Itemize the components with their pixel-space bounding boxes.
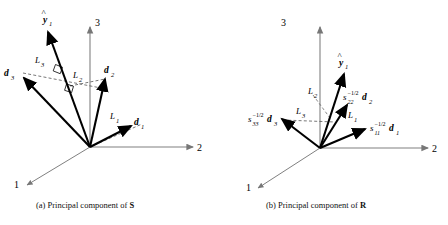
- panel-a-graphic: 3 2 1 y ^ 1 d 3 d 2 d 1: [4, 8, 202, 190]
- vector-yhat1-arrow: [320, 74, 344, 148]
- svg-text:2: 2: [197, 142, 202, 153]
- svg-text:L: L: [109, 111, 115, 121]
- svg-text:2: 2: [369, 98, 373, 105]
- panel-b-caption-text: (b) Principal component of: [266, 200, 360, 210]
- svg-text:1: 1: [141, 123, 144, 130]
- svg-text:d: d: [134, 117, 139, 127]
- axis-2-label: 2: [197, 142, 202, 153]
- panel-b-caption: (b) Principal component of R: [266, 200, 366, 210]
- svg-text:3: 3: [95, 17, 100, 28]
- svg-text:3: 3: [301, 112, 306, 119]
- vector-yhat1-label: y ^ 1: [42, 8, 53, 27]
- panel-a-caption: (a) Principal component of S: [36, 200, 134, 210]
- svg-text:s: s: [248, 114, 252, 124]
- svg-text:1: 1: [396, 129, 399, 136]
- vector-d1-label: d 1: [134, 117, 144, 130]
- svg-text:−1/2: −1/2: [253, 112, 264, 118]
- svg-text:1: 1: [49, 20, 52, 27]
- svg-text:−1/2: −1/2: [348, 90, 359, 96]
- axis-1-label: 1: [14, 179, 19, 190]
- svg-text:2: 2: [79, 76, 83, 83]
- svg-text:s: s: [370, 123, 374, 133]
- projection-L2-label: L 2: [307, 86, 318, 99]
- svg-text:d: d: [389, 123, 394, 133]
- svg-text:d: d: [267, 114, 272, 124]
- svg-text:L: L: [34, 55, 40, 65]
- svg-text:−1/2: −1/2: [375, 121, 386, 127]
- vector-d2-label: d 2: [104, 65, 115, 78]
- panel-a-caption-text: (a) Principal component of: [36, 200, 129, 210]
- axis-3-label: 3: [281, 17, 286, 28]
- vector-s11-d1-label: s 11 −1/2 d 1: [370, 121, 399, 136]
- svg-text:33: 33: [252, 121, 259, 127]
- projection-L2-label: L 2: [72, 70, 83, 83]
- axis-1-line: [258, 148, 320, 188]
- svg-text:11: 11: [375, 130, 381, 136]
- vector-yhat1-arrow: [48, 32, 90, 147]
- svg-text:2: 2: [111, 71, 115, 78]
- projection-L2-dash: [70, 79, 105, 86]
- svg-text:s: s: [343, 92, 347, 102]
- figure-canvas: 3 2 1 y ^ 1 d 3 d 2 d 1: [0, 0, 448, 225]
- projection-L1-label: L 1: [109, 111, 119, 124]
- panel-a-caption-matrix: S: [129, 200, 134, 210]
- svg-text:1: 1: [345, 63, 348, 70]
- vector-s33-d3-label: s 33 −1/2 d 3: [248, 112, 278, 127]
- vector-d1-arrow: [90, 126, 131, 147]
- svg-text:3: 3: [273, 120, 278, 127]
- svg-text:1: 1: [354, 116, 357, 123]
- figure-principal-components: 3 2 1 y ^ 1 d 3 d 2 d 1: [0, 0, 448, 225]
- vector-s33-d3-arrow: [282, 119, 320, 148]
- panel-b-graphic: 3 2 1 y ^ 1 s 33 −1/2 d 3 s 22: [246, 17, 437, 193]
- vector-d3-label: d 3: [4, 68, 15, 81]
- projection-L3-dash: [23, 73, 101, 88]
- svg-text:1: 1: [246, 182, 251, 193]
- axis-1-line: [27, 147, 90, 185]
- axis-2-label: 2: [432, 143, 437, 154]
- vector-s22-d2-label: s 22 −1/2 d 2: [343, 90, 373, 105]
- svg-text:3: 3: [40, 61, 45, 68]
- svg-text:L: L: [295, 106, 301, 116]
- svg-text:d: d: [104, 65, 109, 75]
- vector-yhat1-label: y ^ 1: [338, 51, 349, 70]
- projection-L1-label: L 1: [347, 110, 357, 123]
- axis-1-label: 1: [246, 182, 251, 193]
- svg-text:22: 22: [348, 99, 354, 105]
- svg-text:2: 2: [314, 92, 318, 99]
- svg-text:1: 1: [116, 117, 119, 124]
- svg-text:2: 2: [432, 143, 437, 154]
- svg-text:L: L: [307, 86, 313, 96]
- panel-b-caption-matrix: R: [360, 200, 366, 210]
- axis-3-label: 3: [95, 17, 100, 28]
- svg-text:L: L: [72, 70, 78, 80]
- vector-d3-arrow: [24, 78, 90, 147]
- vector-d2-arrow: [90, 79, 105, 147]
- svg-text:3: 3: [10, 74, 15, 81]
- svg-text:d: d: [4, 68, 9, 78]
- svg-text:L: L: [347, 110, 353, 120]
- projection-L3-label: L 3: [34, 55, 45, 68]
- svg-text:d: d: [362, 92, 367, 102]
- projection-L3-dash: [283, 120, 335, 122]
- svg-text:1: 1: [14, 179, 19, 190]
- projection-L3-label: L 3: [295, 106, 306, 119]
- svg-text:3: 3: [281, 17, 286, 28]
